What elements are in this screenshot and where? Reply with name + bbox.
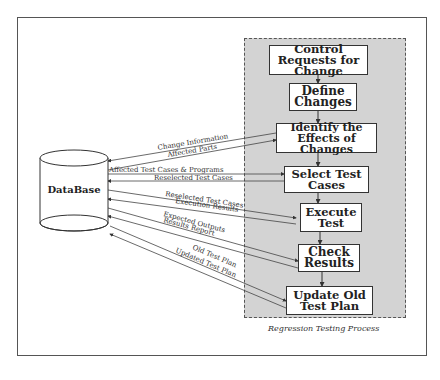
process-caption: Regression Testing Process	[268, 324, 379, 333]
step-select-test-cases: Select Test Cases	[284, 166, 369, 193]
step-update-old-test-plan: Update Old Test Plan	[286, 286, 373, 315]
database-label: DataBase	[45, 184, 103, 195]
step-label: Define Changes	[290, 86, 356, 108]
step-define-changes: Define Changes	[289, 83, 357, 111]
step-label: Update Old Test Plan	[287, 290, 372, 312]
step-label: Check Results	[299, 247, 359, 269]
step-check-results: Check Results	[298, 244, 360, 272]
step-identify-effects: Identify the Effects of Changes	[276, 123, 377, 153]
step-label: Execute Test	[301, 207, 361, 229]
step-label: Select Test Cases	[285, 169, 368, 191]
step-execute-test: Execute Test	[300, 203, 362, 232]
step-control-requests: Control Requests for Change	[269, 45, 368, 75]
step-label: Identify the Effects of Changes	[277, 122, 376, 155]
step-label: Control Requests for Change	[270, 44, 367, 77]
